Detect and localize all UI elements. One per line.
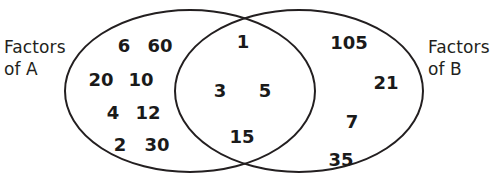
venn-member-left-only: 10 [128,71,153,89]
venn-member-left-only: 60 [147,37,172,55]
venn-member-left-only: 12 [135,104,160,122]
venn-member-intersection: 3 [214,82,227,100]
venn-member-left-only: 4 [107,104,120,122]
venn-member-right-only: 105 [330,34,368,52]
venn-member-left-only: 6 [118,37,131,55]
venn-member-intersection: 1 [237,33,250,51]
venn-member-right-only: 21 [373,74,398,92]
venn-member-right-only: 35 [328,151,353,169]
venn-member-left-only: 2 [114,136,127,154]
venn-member-left-only: 30 [144,136,169,154]
left-set-label: Factors of A [4,36,74,81]
right-set-label: Factors of B [428,36,494,81]
venn-member-intersection: 15 [229,128,254,146]
venn-diagram: Factors of A Factors of B 66020104122301… [0,0,495,184]
venn-circles-svg [0,0,495,184]
venn-member-left-only: 20 [88,71,113,89]
left-set-ellipse [65,10,315,172]
venn-member-right-only: 7 [346,113,359,131]
venn-member-intersection: 5 [259,82,272,100]
